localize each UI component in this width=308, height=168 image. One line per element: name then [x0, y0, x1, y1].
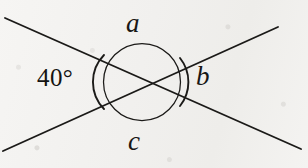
angle-circle	[104, 44, 181, 121]
angle-label-a: a	[126, 10, 140, 37]
angle-label-b: b	[196, 63, 210, 90]
angle-label-c: c	[128, 128, 140, 155]
geometry-figure: a b c 40°	[0, 0, 308, 168]
arc-left-40-degrees	[93, 55, 104, 109]
angle-measure-40-degrees: 40°	[37, 65, 73, 90]
